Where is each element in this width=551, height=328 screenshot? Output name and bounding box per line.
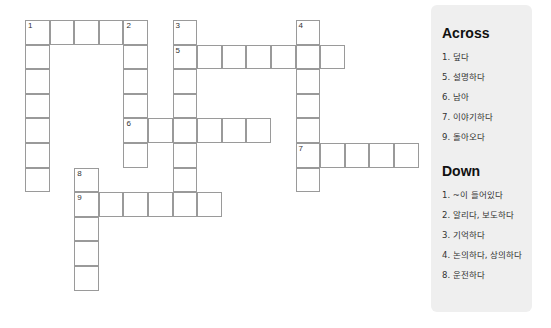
crossword-cell[interactable] [173,143,198,168]
crossword-cell[interactable] [25,143,50,168]
crossword-cell[interactable] [74,241,99,266]
crossword-cell[interactable] [173,168,198,193]
down-heading: Down [442,163,480,179]
crossword-cell[interactable] [25,69,50,94]
crossword-cell[interactable]: 5 [173,45,198,70]
crossword-cell[interactable] [50,20,75,45]
across-heading: Across [442,25,489,41]
crossword-cell[interactable] [25,45,50,70]
crossword-cell[interactable] [296,69,321,94]
crossword-cell[interactable] [123,69,148,94]
crossword-cell[interactable]: 2 [123,20,148,45]
crossword-cell[interactable] [296,94,321,119]
crossword-cell[interactable] [296,45,321,70]
clue-number: 8 [77,169,81,178]
crossword-cell[interactable] [222,118,247,143]
crossword-cell[interactable] [197,192,222,217]
down-clue-8: 8. 운전하다 [442,268,485,280]
across-clue-7: 7. 이야기하다 [442,110,493,122]
clue-number: 3 [176,21,180,30]
clue-number: 5 [176,46,180,55]
crossword-cell[interactable]: 6 [123,118,148,143]
across-clue-5: 5. 설명하다 [442,70,485,82]
crossword-cell[interactable] [296,118,321,143]
across-clue-1: 1. 덮다 [442,50,469,62]
crossword-cell[interactable]: 9 [74,192,99,217]
down-clue-1: 1. ~이 들어있다 [442,188,503,200]
crossword-cell[interactable] [345,143,370,168]
down-clue-3: 3. 기억하다 [442,228,485,240]
crossword-cell[interactable] [173,69,198,94]
crossword-cell[interactable]: 1 [25,20,50,45]
clue-number: 9 [77,193,81,202]
crossword-cell[interactable] [320,143,345,168]
crossword-cell[interactable] [148,118,173,143]
crossword-cell[interactable] [197,118,222,143]
crossword-cell[interactable] [222,45,247,70]
crossword-cell[interactable] [320,45,345,70]
crossword-grid: 126354789 [0,0,425,328]
crossword-cell[interactable] [123,143,148,168]
crossword-cell[interactable] [74,20,99,45]
across-clue-6: 6. 남아 [442,90,469,102]
crossword-cell[interactable] [246,118,271,143]
clue-number: 1 [28,21,32,30]
crossword-cell[interactable]: 4 [296,20,321,45]
crossword-cell[interactable] [99,192,124,217]
crossword-cell[interactable] [74,266,99,291]
crossword-cell[interactable] [25,118,50,143]
clues-panel: Across 1. 덮다 5. 설명하다 6. 남아 7. 이야기하다 9. 돌… [431,5,532,312]
clue-number: 2 [126,21,130,30]
crossword-cell[interactable] [99,20,124,45]
clue-number: 6 [126,119,130,128]
crossword-cell[interactable] [369,143,394,168]
crossword-cell[interactable] [123,45,148,70]
down-clue-2: 2. 알리다, 보도하다 [442,208,514,220]
clue-number: 4 [299,21,303,30]
crossword-cell[interactable] [173,118,198,143]
crossword-cell[interactable] [173,94,198,119]
crossword-cell[interactable] [123,94,148,119]
crossword-cell[interactable] [173,192,198,217]
crossword-cell[interactable] [246,45,271,70]
crossword-cell[interactable] [148,192,173,217]
clue-number: 7 [299,144,303,153]
crossword-cell[interactable] [271,45,296,70]
crossword-cell[interactable] [197,45,222,70]
crossword-cell[interactable] [296,168,321,193]
crossword-cell[interactable] [25,168,50,193]
crossword-cell[interactable] [394,143,419,168]
crossword-cell[interactable]: 7 [296,143,321,168]
down-clue-4: 4. 논의하다, 상의하다 [442,248,522,260]
crossword-cell[interactable] [123,192,148,217]
across-clue-9: 9. 돌아오다 [442,130,485,142]
crossword-cell[interactable] [74,217,99,242]
crossword-cell[interactable]: 8 [74,168,99,193]
crossword-cell[interactable]: 3 [173,20,198,45]
crossword-cell[interactable] [25,94,50,119]
